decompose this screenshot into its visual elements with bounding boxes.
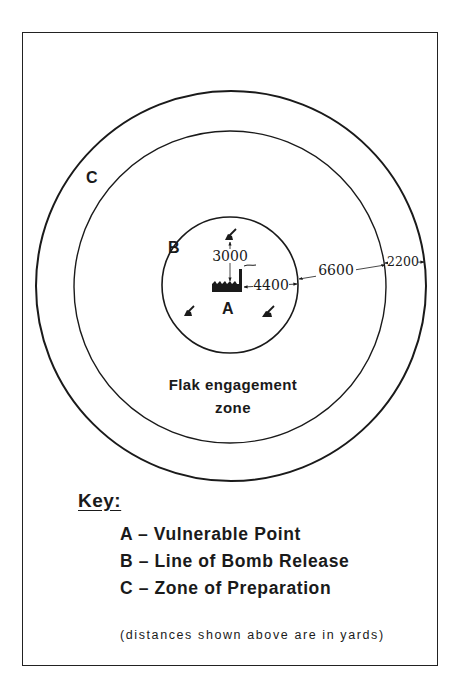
key-item-b: B – Line of Bomb Release [120, 551, 349, 572]
distance-label-3000: 3000 [212, 248, 248, 264]
point-a-label: A [222, 300, 234, 317]
anti-aircraft-gun-icon [262, 306, 274, 317]
key-item-c: C – Zone of Preparation [120, 578, 331, 599]
zone-c-label: C [86, 169, 98, 186]
distance-label-6600: 6600 [318, 262, 354, 278]
zone-b-label: B [168, 239, 180, 256]
anti-aircraft-gun-icon [184, 306, 194, 316]
anti-aircraft-gun-icon [225, 229, 236, 240]
key-title: Key: [78, 490, 121, 512]
distance-label-4400: 4400 [253, 277, 289, 293]
flak-zone-label-line1: Flak engagement [169, 376, 298, 393]
flak-zone-label-line2: zone [215, 399, 251, 416]
units-note: (distances shown above are in yards) [120, 628, 385, 642]
factory-icon [212, 265, 256, 292]
key-item-a: A – Vulnerable Point [120, 524, 301, 545]
distance-label-2200: 2200 [387, 254, 419, 269]
